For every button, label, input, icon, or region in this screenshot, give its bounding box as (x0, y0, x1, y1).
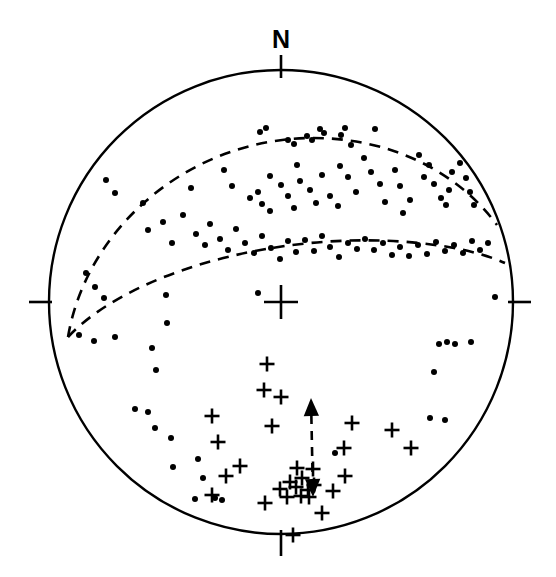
data-point-dot (302, 237, 308, 243)
data-point-dot (277, 256, 283, 262)
data-point-dot (407, 197, 413, 203)
data-point-plus (265, 419, 280, 434)
data-point-plus (257, 383, 272, 398)
data-point-dot (416, 152, 422, 158)
data-point-dot (83, 270, 89, 276)
data-point-dot (294, 162, 300, 168)
double-headed-dashed-arrow (304, 398, 321, 497)
data-point-plus (338, 469, 353, 484)
data-point-dot (132, 406, 138, 412)
data-point-dot (372, 126, 378, 132)
data-point-dot (195, 456, 201, 462)
data-point-dot (327, 193, 333, 199)
data-point-dot (267, 173, 273, 179)
data-point-dot (259, 233, 265, 239)
lower-dashed-great-circle (68, 240, 505, 337)
data-point-dot (112, 190, 118, 196)
data-point-dot (192, 496, 198, 502)
great-circle-group (68, 138, 505, 337)
data-point-dot (285, 193, 291, 199)
data-point-dot (492, 294, 498, 300)
data-point-dot (452, 341, 458, 347)
data-point-dot (291, 141, 297, 147)
data-point-dot (170, 464, 176, 470)
data-point-dot (427, 415, 433, 421)
arrow-head-upper (304, 398, 319, 416)
data-point-dot (319, 233, 325, 239)
data-point-dot (309, 137, 315, 143)
data-point-dot (217, 236, 223, 242)
data-point-dot (442, 248, 448, 254)
data-point-dot (345, 240, 351, 246)
data-point-dot (424, 251, 430, 257)
data-point-plus (286, 528, 301, 543)
data-point-dot (467, 189, 473, 195)
data-point-plus (273, 482, 288, 497)
data-point-dot (433, 239, 439, 245)
data-point-dot (268, 245, 274, 251)
center-cross-mark (264, 285, 298, 319)
data-point-dot (285, 238, 291, 244)
data-point-dot (336, 254, 342, 260)
data-point-dot (297, 178, 303, 184)
data-point-dot (457, 160, 463, 166)
data-point-dot (332, 450, 338, 456)
data-point-plus (205, 409, 220, 424)
data-point-dot (436, 341, 442, 347)
data-point-plus (315, 506, 330, 521)
data-point-dot (327, 244, 333, 250)
data-point-plus (326, 484, 341, 499)
data-point-dot (446, 187, 452, 193)
data-point-plus (274, 390, 289, 405)
data-point-dot (371, 247, 377, 253)
data-point-dot (377, 181, 383, 187)
data-point-dot (229, 183, 235, 189)
data-point-dot (257, 129, 263, 135)
north-label: N (272, 25, 290, 53)
data-point-dot (168, 435, 174, 441)
data-point-dot (92, 284, 98, 290)
data-point-plus (258, 496, 273, 511)
data-point-dot (463, 175, 469, 181)
data-point-dot (200, 475, 206, 481)
data-point-dot (255, 189, 261, 195)
data-point-dot (471, 202, 477, 208)
data-point-dot (361, 155, 367, 161)
data-point-dot (485, 240, 491, 246)
data-point-dot (307, 187, 313, 193)
data-point-dot (389, 252, 395, 258)
data-point-plus (205, 488, 220, 503)
data-point-dot (415, 242, 421, 248)
data-point-dot (321, 130, 327, 136)
data-point-dot (255, 290, 261, 296)
data-point-dot (431, 181, 437, 187)
data-point-dot (426, 162, 432, 168)
data-point-dot (338, 132, 344, 138)
data-point-plus (280, 490, 295, 505)
data-point-dot (477, 247, 483, 253)
data-point-dot (451, 242, 457, 248)
data-point-dot (193, 231, 199, 237)
data-point-dot (152, 425, 158, 431)
data-point-dot (354, 246, 360, 252)
data-point-dot (313, 200, 319, 206)
data-point-dot (421, 174, 427, 180)
data-point-dot (362, 236, 368, 242)
data-point-plus (404, 441, 419, 456)
data-point-plus (345, 416, 360, 431)
data-point-dot (469, 238, 475, 244)
data-point-dot (438, 195, 444, 201)
data-point-dot (91, 338, 97, 344)
data-point-dot (304, 133, 310, 139)
data-point-dot (444, 339, 450, 345)
data-point-dot (112, 334, 118, 340)
data-point-dot (278, 182, 284, 188)
data-point-dot (140, 200, 146, 206)
data-point-dot (335, 203, 341, 209)
data-point-plus (233, 459, 248, 474)
data-point-plus (211, 435, 226, 450)
data-point-dot (285, 137, 291, 143)
data-point-dot (207, 221, 213, 227)
data-point-dot (202, 242, 208, 248)
data-point-dot (406, 253, 412, 259)
